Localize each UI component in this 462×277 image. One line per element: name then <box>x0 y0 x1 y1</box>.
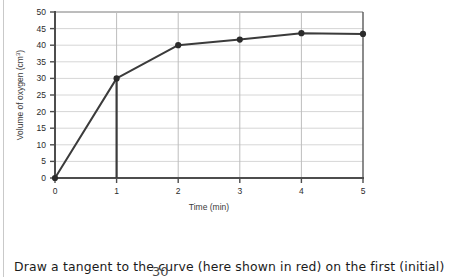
y-tick-label: 10 <box>37 140 47 150</box>
svg-text:Volume of oxygen (cm3): Volume of oxygen (cm3) <box>15 50 25 140</box>
data-point-marker <box>298 30 304 36</box>
y-tick-label: 30 <box>37 73 47 83</box>
y-tick-label: 50 <box>37 7 47 17</box>
y-axis-title-base: Volume of oxygen (cm <box>15 56 25 140</box>
y-tick-label: 40 <box>37 40 47 50</box>
y-axis-title: Volume of oxygen (cm3) <box>15 50 25 140</box>
y-tick-label: 0 <box>41 173 46 183</box>
y-tick-label: 35 <box>37 57 47 67</box>
data-point-marker <box>52 175 58 181</box>
y-axis-title-close: ) <box>15 50 25 53</box>
y-axis-tick-labels: 0 5 10 15 20 25 30 35 40 45 50 <box>37 7 47 183</box>
x-tick-label: 3 <box>237 186 242 196</box>
x-axis-title: Time (min) <box>189 202 229 212</box>
y-tick-label: 25 <box>37 90 47 100</box>
x-tick-label: 2 <box>176 186 181 196</box>
y-tick-label: 20 <box>37 107 47 117</box>
handwritten-caption: Draw a tangent to the curve (here shown … <box>14 224 460 277</box>
x-axis-tick-labels: 0 1 2 3 4 5 <box>53 186 366 196</box>
worksheet-page: 0 5 10 15 20 25 30 35 40 45 50 0 1 2 3 4… <box>0 0 462 277</box>
x-tick-label: 1 <box>114 186 119 196</box>
caption-line-1: Draw a tangent to the curve (here shown … <box>14 258 460 277</box>
x-tick-label: 4 <box>299 186 304 196</box>
y-tick-label: 45 <box>37 24 47 34</box>
cut-off-number: 30 <box>152 265 169 276</box>
data-point-marker <box>360 31 366 37</box>
data-point-marker <box>175 42 181 48</box>
y-tick-label: 5 <box>41 156 46 166</box>
chart-svg: 0 5 10 15 20 25 30 35 40 45 50 0 1 2 3 4… <box>0 0 462 216</box>
x-tick-label: 5 <box>361 186 366 196</box>
oxygen-volume-line-chart: 0 5 10 15 20 25 30 35 40 45 50 0 1 2 3 4… <box>0 0 462 216</box>
y-tick-label: 15 <box>37 123 47 133</box>
x-tick-label: 0 <box>53 186 58 196</box>
data-point-marker <box>237 37 243 43</box>
data-point-marker <box>114 75 120 81</box>
